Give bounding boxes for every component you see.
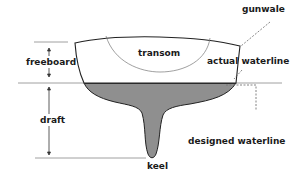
designed-waterline-label: designed waterline bbox=[188, 137, 285, 146]
gunwale-label: gunwale bbox=[242, 5, 285, 14]
transom-label: transom bbox=[138, 49, 180, 58]
actual-waterline-label: actual waterline bbox=[207, 57, 289, 66]
hull-diagram bbox=[0, 0, 294, 181]
gunwale-leader bbox=[241, 22, 270, 46]
submerged-hull bbox=[84, 83, 236, 158]
freeboard-label: freeboard bbox=[26, 58, 76, 67]
draft-label: draft bbox=[40, 116, 65, 125]
keel-label: keel bbox=[147, 162, 168, 171]
